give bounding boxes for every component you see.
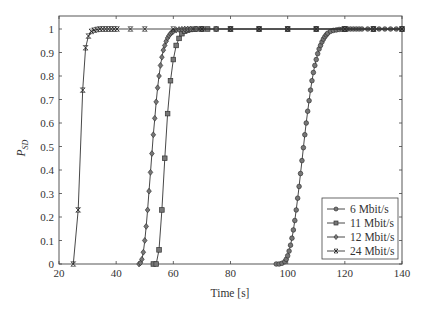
y-tick-label: 0.9 [40,47,54,59]
y-tick-label: 0.1 [40,235,54,247]
legend-label: 11 Mbit/s [350,217,395,229]
x-tick-label: 60 [168,267,180,279]
legend-label: 12 Mbit/s [350,231,395,243]
line-chart: 20406080100120140 00.10.20.30.40.50.60.7… [0,0,426,312]
y-tick-label: 0.6 [40,117,54,129]
y-tick-label: 0.3 [40,188,54,200]
y-axis-label-sub: SD [21,139,30,149]
legend-label: 6 Mbit/s [350,203,389,215]
y-tick-label: 0.4 [40,164,54,176]
x-axis-label: Time [s] [211,287,250,299]
y-tick-label: 0.8 [40,70,54,82]
legend: 6 Mbit/s11 Mbit/s12 Mbit/s24 Mbit/s [322,198,398,259]
x-tick-label: 100 [279,267,296,279]
x-tick-label: 120 [337,267,354,279]
y-tick-label: 0 [49,258,55,270]
y-tick-label: 0.5 [40,141,54,153]
x-tick-label: 80 [225,267,237,279]
y-tick-label: 0.7 [40,94,54,106]
y-tick-label: 0.2 [40,211,54,223]
legend-label: 24 Mbit/s [350,245,395,257]
x-tick-label: 40 [111,267,123,279]
y-axis-label-main: P [15,149,27,157]
y-tick-label: 1 [49,23,55,35]
x-tick-label: 140 [394,267,411,279]
svg-text:PSD: PSD [15,139,30,157]
y-axis-label: PSD [15,139,30,157]
x-tick-label: 20 [54,267,66,279]
